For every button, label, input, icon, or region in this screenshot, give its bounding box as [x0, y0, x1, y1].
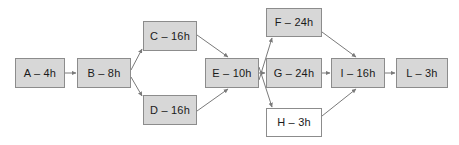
node-f[interactable]: F – 24h [266, 8, 322, 37]
node-c-label: C – 16h [150, 31, 190, 42]
edge-b-to-c [131, 49, 142, 70]
node-b[interactable]: B – 8h [77, 58, 131, 88]
node-f-label: F – 24h [275, 17, 314, 28]
node-l[interactable]: L – 3h [396, 58, 448, 88]
node-e[interactable]: E – 10h [205, 58, 259, 88]
node-h[interactable]: H – 3h [266, 108, 322, 137]
node-i-label: I – 16h [340, 68, 375, 79]
node-g-label: G – 24h [274, 68, 315, 79]
edge-d-to-e [197, 89, 228, 111]
node-a-label: A – 4h [24, 68, 56, 79]
node-l-label: L – 3h [406, 68, 437, 79]
edge-b-to-d [131, 77, 142, 96]
edge-c-to-e [197, 35, 228, 57]
edge-h-to-i [322, 89, 356, 116]
node-h-label: H – 3h [277, 117, 311, 128]
activity-network-diagram: A – 4hB – 8hC – 16hD – 16hE – 10hF – 24h… [0, 0, 459, 145]
edge-f-to-i [322, 32, 356, 57]
node-d[interactable]: D – 16h [143, 95, 197, 125]
node-e-label: E – 10h [212, 68, 251, 79]
node-i[interactable]: I – 16h [331, 58, 385, 88]
node-d-label: D – 16h [150, 105, 190, 116]
node-a[interactable]: A – 4h [15, 58, 65, 88]
node-b-label: B – 8h [87, 68, 120, 79]
node-g[interactable]: G – 24h [266, 58, 322, 88]
node-c[interactable]: C – 16h [143, 21, 197, 51]
